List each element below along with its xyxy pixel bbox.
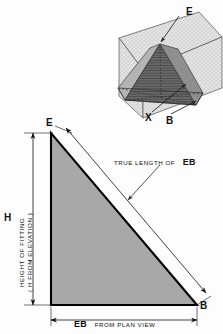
true-length-caption: TRUE LENGTH OF EB xyxy=(114,152,196,168)
base-caption-suffix: FROM PLAN VIEW xyxy=(95,321,156,328)
pictorial-label-b: B xyxy=(166,116,173,126)
height-symbol-h: H xyxy=(4,213,11,223)
pictorial-view xyxy=(118,12,222,118)
pictorial-label-e: E xyxy=(186,7,193,17)
construction-label-b: B xyxy=(200,301,207,311)
base-caption-term: EB xyxy=(74,319,87,329)
true-length-diagram: E X B E B H HEIGHT OF FITTING ( H FROM E… xyxy=(0,0,223,334)
base-caption: EB FROM PLAN VIEW xyxy=(74,314,155,330)
height-caption-line-2: ( H FROM ELEVATION ) xyxy=(26,213,34,293)
height-caption-line-1: HEIGHT OF FITTING xyxy=(18,213,26,293)
height-caption: HEIGHT OF FITTING ( H FROM ELEVATION ) xyxy=(18,213,34,293)
pictorial-label-x: X xyxy=(145,113,152,123)
construction-label-e: E xyxy=(46,118,53,128)
true-length-leader xyxy=(128,165,160,200)
true-length-caption-term: EB xyxy=(183,157,196,167)
true-length-caption-prefix: TRUE LENGTH OF xyxy=(114,159,175,166)
